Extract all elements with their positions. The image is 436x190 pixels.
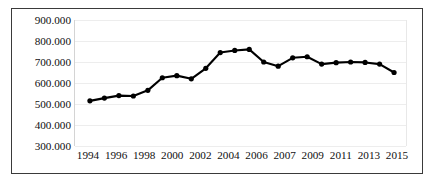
x-tick-label: 1996 (105, 149, 127, 161)
y-tick-label: 300.000 (35, 140, 71, 152)
data-point (276, 64, 281, 69)
data-point (102, 96, 107, 101)
y-tick-label: 500.000 (35, 98, 71, 110)
data-point (319, 62, 324, 67)
y-tick-label: 800.000 (35, 35, 71, 47)
data-point (377, 62, 382, 67)
data-point (363, 60, 368, 65)
data-point (348, 59, 353, 64)
data-point (247, 47, 252, 52)
data-point (290, 55, 295, 60)
data-point (189, 76, 194, 81)
x-tick-label: 1998 (133, 149, 155, 161)
data-point (203, 66, 208, 71)
gridline (75, 146, 406, 147)
x-tick-label: 2013 (358, 149, 380, 161)
x-tick-label: 2015 (386, 149, 408, 161)
data-point (261, 59, 266, 64)
data-point (116, 93, 121, 98)
data-point (160, 75, 165, 80)
data-point (391, 70, 396, 75)
x-axis: 1994199619982000200220042006200720092011… (74, 149, 407, 169)
data-point (87, 98, 92, 103)
x-tick-label: 1994 (77, 149, 99, 161)
data-point (305, 54, 310, 59)
series-line (90, 49, 394, 100)
x-tick-label: 2009 (302, 149, 324, 161)
chart-frame: 900.000800.000700.000600.000500.000400.0… (11, 8, 423, 174)
data-point (334, 60, 339, 65)
y-tick-label: 400.000 (35, 119, 71, 131)
line-chart-figure: 900.000800.000700.000600.000500.000400.0… (0, 0, 436, 190)
x-tick-label: 2007 (273, 149, 295, 161)
y-axis: 900.000800.000700.000600.000500.000400.0… (23, 20, 74, 146)
x-tick-label: 2004 (217, 149, 239, 161)
x-tick-label: 2006 (245, 149, 267, 161)
y-tick-label: 600.000 (35, 77, 71, 89)
data-point (174, 73, 179, 78)
plot-area (74, 20, 407, 146)
data-point (218, 50, 223, 55)
y-tick-label: 700.000 (35, 56, 71, 68)
data-point (232, 48, 237, 53)
data-series (75, 20, 406, 146)
x-tick-label: 2011 (330, 149, 352, 161)
data-point (145, 88, 150, 93)
x-tick-label: 2000 (161, 149, 183, 161)
y-tick-label: 900.000 (35, 14, 71, 26)
x-tick-label: 2002 (189, 149, 211, 161)
data-point (131, 93, 136, 98)
